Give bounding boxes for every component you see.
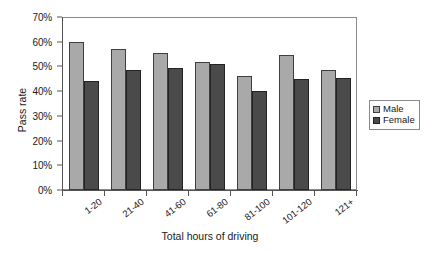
x-tick-label: 121+ bbox=[332, 196, 355, 218]
y-tick-mark bbox=[57, 91, 62, 92]
bar-male-41-60 bbox=[153, 53, 168, 190]
legend-label-female: Female bbox=[383, 115, 415, 126]
y-tick-mark bbox=[57, 115, 62, 116]
legend-swatch-male-icon bbox=[373, 106, 380, 113]
x-tick-mark bbox=[230, 191, 231, 196]
x-tick-label: 21-40 bbox=[120, 196, 146, 219]
y-axis-title: Pass rate bbox=[16, 60, 28, 160]
x-tick-mark bbox=[272, 191, 273, 196]
x-tick-label: 61-80 bbox=[204, 196, 230, 219]
y-tick-label: 10% bbox=[33, 160, 52, 171]
y-tick-label: 60% bbox=[33, 36, 52, 47]
x-tick-mark bbox=[314, 191, 315, 196]
bar-female-21-40 bbox=[126, 70, 141, 190]
bar-female-121+ bbox=[336, 78, 351, 190]
x-tick-mark bbox=[104, 191, 105, 196]
x-tick-mark bbox=[146, 191, 147, 196]
y-tick-label: 0% bbox=[38, 185, 52, 196]
bar-male-121+ bbox=[321, 70, 336, 190]
y-tick-label: 50% bbox=[33, 61, 52, 72]
bar-male-1-20 bbox=[69, 42, 84, 190]
y-tick-label: 70% bbox=[33, 12, 52, 23]
chart-legend: Male Female bbox=[369, 100, 420, 130]
y-tick-mark bbox=[57, 66, 62, 67]
x-tick-label: 1-20 bbox=[82, 196, 103, 216]
bar-female-61-80 bbox=[210, 64, 225, 190]
bar-chart: 0%10%20%30%40%50%60%70% Pass rate 1-2021… bbox=[0, 0, 426, 254]
y-tick-mark bbox=[57, 41, 62, 42]
x-axis-title: Total hours of driving bbox=[62, 230, 358, 242]
bar-male-81-100 bbox=[237, 76, 252, 190]
bar-male-21-40 bbox=[111, 49, 126, 190]
y-tick-mark bbox=[57, 17, 62, 18]
legend-swatch-female-icon bbox=[373, 117, 380, 124]
legend-item-female: Female bbox=[373, 115, 415, 126]
y-tick-label: 20% bbox=[33, 135, 52, 146]
bar-male-101-120 bbox=[279, 55, 294, 190]
bars-layer bbox=[63, 18, 357, 190]
bar-male-61-80 bbox=[195, 62, 210, 191]
y-tick-mark bbox=[57, 165, 62, 166]
x-tick-label: 41-60 bbox=[162, 196, 188, 219]
x-tick-label: 101-120 bbox=[280, 196, 314, 226]
y-tick-label: 40% bbox=[33, 86, 52, 97]
y-tick-mark bbox=[57, 140, 62, 141]
x-tick-label: 81-100 bbox=[242, 196, 272, 223]
bar-female-101-120 bbox=[294, 79, 309, 190]
y-tick-label: 30% bbox=[33, 110, 52, 121]
x-tick-mark bbox=[356, 191, 357, 196]
x-tick-mark bbox=[62, 191, 63, 196]
x-tick-mark bbox=[188, 191, 189, 196]
bar-female-41-60 bbox=[168, 68, 183, 190]
bar-female-81-100 bbox=[252, 91, 267, 190]
bar-female-1-20 bbox=[84, 81, 99, 190]
